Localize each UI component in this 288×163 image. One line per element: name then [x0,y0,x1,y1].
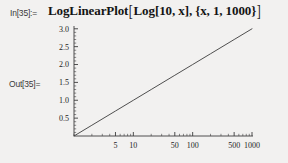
x-tick-label: 5 [113,141,117,150]
output-cell-label: Out[35]= [9,79,40,89]
function-arguments: Log[10, x], {x, 1, 1000} [134,3,257,18]
x-tick-label: 50 [171,141,179,150]
input-expression[interactable]: LogLinearPlot[Log[10, x], {x, 1, 1000}] [48,3,261,19]
y-tick-label: 2.0 [59,60,69,69]
plot-data-line [74,29,252,136]
y-tick-label: 1.0 [59,96,69,105]
input-cell-label: In[35]:= [10,8,37,18]
open-bracket: [ [129,6,133,18]
y-tick-label: 1.5 [59,78,69,87]
x-tick-label: 500 [228,141,240,150]
output-cell[interactable]: 5105010050010000.51.01.52.02.53.0 [46,22,276,160]
x-tick-label: 100 [187,141,199,150]
function-name: LogLinearPlot [48,3,128,18]
y-tick-label: 3.0 [59,25,69,34]
x-tick-label: 10 [129,141,137,150]
data-series-line [74,29,252,136]
y-tick-label: 0.5 [59,114,69,123]
mathematica-notebook: In[35]:= LogLinearPlot[Log[10, x], {x, 1… [0,0,288,163]
close-bracket: ] [257,6,261,18]
input-cell[interactable]: In[35]:= LogLinearPlot[Log[10, x], {x, 1… [0,2,288,24]
plot-tick-labels: 5105010050010000.51.01.52.02.53.0 [59,25,260,150]
y-tick-label: 2.5 [59,43,69,52]
log-linear-plot[interactable]: 5105010050010000.51.01.52.02.53.0 [46,22,276,160]
x-tick-label: 1000 [244,141,260,150]
